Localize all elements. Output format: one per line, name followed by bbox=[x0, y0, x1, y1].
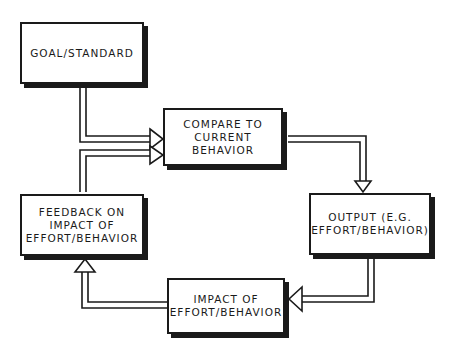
edge-output-to-impact bbox=[289, 259, 374, 311]
node-label: OUTPUT (E.G. EFFORT/BEHAVIOR) bbox=[311, 211, 429, 237]
node-goal-standard: GOAL/STANDARD bbox=[20, 22, 144, 84]
node-label: FEEDBACK ON IMPACT OF EFFORT/BEHAVIOR bbox=[26, 206, 139, 245]
node-label: GOAL/STANDARD bbox=[30, 47, 134, 60]
edge-feedback-to-compare bbox=[80, 146, 163, 192]
edge-goal-to-compare bbox=[80, 87, 163, 149]
node-compare-to-current-behavior: COMPARE TO CURRENT BEHAVIOR bbox=[163, 108, 283, 166]
node-label: COMPARE TO CURRENT BEHAVIOR bbox=[183, 118, 262, 157]
node-feedback-on-impact: FEEDBACK ON IMPACT OF EFFORT/BEHAVIOR bbox=[20, 194, 144, 256]
node-output: OUTPUT (E.G. EFFORT/BEHAVIOR) bbox=[309, 193, 431, 255]
node-impact-of-effort-behavior: IMPACT OF EFFORT/BEHAVIOR bbox=[167, 278, 285, 334]
edge-impact-to-feedback bbox=[75, 259, 167, 308]
edge-compare-to-output bbox=[288, 136, 371, 192]
node-label: IMPACT OF EFFORT/BEHAVIOR bbox=[170, 293, 283, 319]
